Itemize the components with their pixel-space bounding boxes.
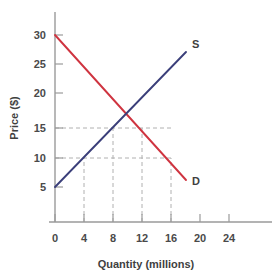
y-tick-label-10: 10 [34,152,46,164]
y-tick-label-15: 15 [34,122,46,134]
x-tick-labels: 0 4 8 12 16 20 24 [52,232,236,244]
y-tick-label-25: 25 [34,58,46,70]
x-tick-label-0: 0 [52,232,58,244]
y-axis-title: Price ($) [8,96,20,140]
demand-curve-label: D [192,175,200,187]
chart-canvas: 30 25 20 15 10 5 0 4 8 12 16 20 24 S D Q… [0,0,278,280]
vertical-guide-lines [84,128,171,222]
x-tick-label-16: 16 [165,232,177,244]
y-tick-label-5: 5 [40,181,46,193]
y-tick-label-20: 20 [34,87,46,99]
x-tick-label-24: 24 [223,232,236,244]
supply-curve [55,52,186,187]
x-tick-label-8: 8 [110,232,116,244]
supply-curve-label: S [192,38,199,50]
y-tick-labels: 30 25 20 15 10 5 [34,29,46,193]
y-tick-label-30: 30 [34,29,46,41]
x-tick-marks [55,214,229,222]
supply-demand-chart: 30 25 20 15 10 5 0 4 8 12 16 20 24 S D Q… [0,0,278,280]
x-axis-title: Quantity (millions) [98,258,195,270]
axes [49,12,272,222]
y-tick-marks [55,35,63,187]
x-tick-label-20: 20 [194,232,206,244]
x-tick-label-4: 4 [81,232,88,244]
x-tick-label-12: 12 [136,232,148,244]
